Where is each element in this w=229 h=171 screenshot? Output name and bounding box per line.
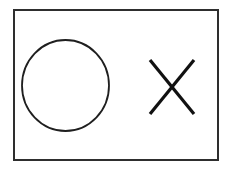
circle-shape [22, 40, 109, 131]
outer-rectangle [14, 10, 218, 160]
x-mark [150, 60, 194, 114]
figure-svg [0, 0, 229, 171]
drawing-canvas [0, 0, 229, 171]
